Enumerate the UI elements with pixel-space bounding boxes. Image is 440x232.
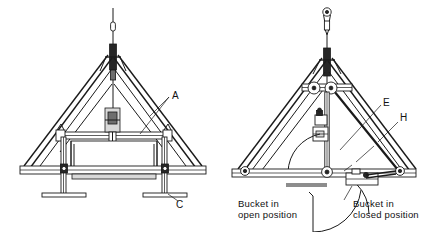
left-view-group: A C: [20, 8, 206, 210]
left-hoist-block: [105, 108, 120, 146]
caption-open-line1: Bucket in: [238, 198, 279, 209]
left-bottom-tie-bar: [20, 166, 206, 179]
right-shackle-eye: [323, 8, 331, 35]
captions-group: Bucket in open position Bucket in closed…: [238, 198, 419, 220]
callout-H-label: H: [400, 112, 407, 123]
right-center-pivot: [322, 167, 333, 178]
caption-closed-line1: Bucket in: [353, 198, 394, 209]
callout-E-label: E: [383, 97, 390, 108]
callout-A-label: A: [172, 90, 179, 101]
right-right-corner-pivot: [396, 167, 405, 176]
caption-closed-line2: closed position: [353, 209, 419, 220]
technical-drawing: A C: [0, 0, 440, 232]
left-mast-head: [110, 44, 117, 108]
drawing-canvas: A C: [0, 0, 440, 232]
left-suspension-link: [111, 8, 116, 44]
right-left-corner-pivot: [241, 167, 250, 176]
callout-C-label: C: [176, 199, 183, 210]
callout-E: E: [340, 97, 390, 150]
right-frame-left-leg: [238, 58, 326, 171]
caption-open-line2: open position: [238, 209, 297, 220]
